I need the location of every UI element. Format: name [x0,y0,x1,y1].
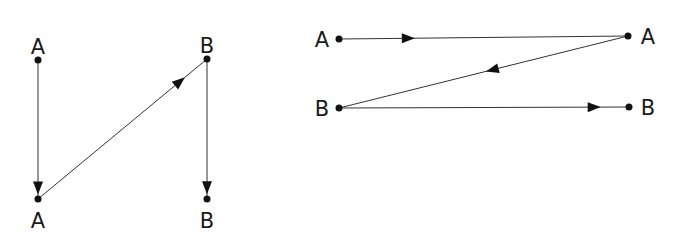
node-label-a: A [31,35,46,59]
arrowhead-icon [486,63,500,73]
right-diagram: AABB [315,25,656,121]
arrowhead-icon [402,33,415,43]
node-label-b: B [200,209,214,233]
node-dot-b [204,196,211,203]
edge-a-to-a [339,36,628,39]
diagram-canvas: AABB AABB [0,0,679,239]
node-label-a: A [315,28,330,52]
node-label-b: B [200,34,214,58]
arrowhead-icon [202,181,212,194]
arrowhead-icon [588,102,601,112]
node-dot-a [625,33,632,40]
left-diagram: AABB [31,34,214,233]
arrowhead-icon [33,181,43,194]
node-dot-a [336,36,343,43]
node-label-a: A [31,209,46,233]
node-dot-b [336,105,343,112]
edge-b-to-b [339,107,629,108]
node-dot-a [35,196,42,203]
node-label-b: B [641,96,655,120]
node-dot-b [626,104,633,111]
arrowhead-icon [172,77,185,89]
node-label-b: B [315,97,329,121]
node-label-a: A [641,25,656,49]
edge-a-to-b [339,36,628,108]
